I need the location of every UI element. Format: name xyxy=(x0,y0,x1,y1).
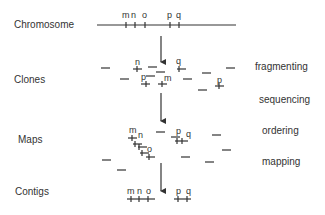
step-label-sequencing: sequencing xyxy=(259,95,310,105)
marker-n: n xyxy=(135,58,140,67)
step-label-mapping: mapping xyxy=(262,157,300,167)
marker-n: n xyxy=(138,131,143,140)
row-label-maps: Maps xyxy=(18,135,42,145)
marker-p: p xyxy=(167,11,172,20)
marker-q: q xyxy=(176,11,181,20)
marker-o: o xyxy=(146,187,151,196)
marker-p: p xyxy=(141,73,146,82)
marker-o: o xyxy=(142,11,147,20)
marker-n: n xyxy=(137,187,142,196)
marker-m: m xyxy=(127,187,135,196)
marker-m: m xyxy=(122,11,130,20)
marker-p: p xyxy=(176,187,181,196)
marker-m: m xyxy=(129,126,137,135)
map-fragments xyxy=(102,132,231,170)
marker-q: q xyxy=(186,130,191,139)
row-label-chromosome: Chromosome xyxy=(14,20,74,30)
chromosome-line xyxy=(97,22,236,28)
marker-q: q xyxy=(186,187,191,196)
contig-lines xyxy=(127,196,191,202)
marker-o: o xyxy=(147,145,152,154)
marker-q: q xyxy=(176,57,181,66)
marker-m: m xyxy=(164,74,172,83)
step-label-fragmenting: fragmenting xyxy=(255,62,308,72)
marker-n: n xyxy=(131,11,136,20)
marker-p: p xyxy=(217,76,222,85)
row-label-contigs: Contigs xyxy=(15,187,49,197)
marker-p: p xyxy=(176,127,181,136)
genome-mapping-diagram xyxy=(0,0,325,215)
row-label-clones: Clones xyxy=(14,75,45,85)
step-label-ordering: ordering xyxy=(262,126,299,136)
